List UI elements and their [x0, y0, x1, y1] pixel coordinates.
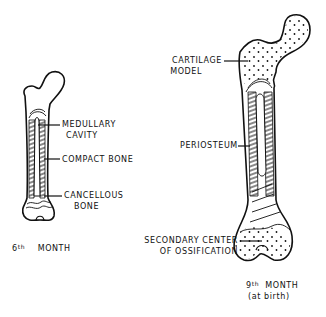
- label-line: CANCELLOUS: [64, 190, 124, 201]
- label-periosteum: PERIOSTEUM: [180, 140, 238, 151]
- caption-number: 6: [12, 244, 18, 253]
- caption-number: 9: [246, 281, 252, 290]
- label-cancellous-bone: CANCELLOUS BONE: [64, 190, 124, 212]
- bone-diagram: [0, 0, 326, 317]
- caption-text: MONTH: [38, 244, 71, 253]
- caption-text: MONTH: [265, 281, 298, 290]
- caption-suffix: th: [18, 243, 25, 250]
- label-line: CARTILAGE: [160, 55, 222, 66]
- ninth-month-femur: [234, 15, 310, 261]
- label-line: BONE: [64, 201, 124, 212]
- sixth-month-femur: [23, 72, 65, 221]
- label-compact-bone: COMPACT BONE: [62, 154, 133, 165]
- caption-subtext: (at birth): [246, 291, 298, 302]
- caption-ninth-month: 9th MONTH (at birth): [246, 280, 298, 302]
- label-line: OF OSSIFICATION: [136, 246, 238, 257]
- caption-sixth-month: 6th MONTH: [12, 243, 71, 254]
- label-line: CAVITY: [62, 130, 116, 141]
- caption-suffix: th: [252, 280, 259, 287]
- label-secondary-center-ossification: SECONDARY CENTER OF OSSIFICATION: [136, 235, 238, 257]
- label-line: MEDULLARY: [62, 119, 116, 130]
- label-medullary-cavity: MEDULLARY CAVITY: [62, 119, 116, 141]
- label-line: SECONDARY CENTER: [136, 235, 238, 246]
- label-line: MODEL: [160, 66, 222, 77]
- label-cartilage-model: CARTILAGE MODEL: [160, 55, 222, 77]
